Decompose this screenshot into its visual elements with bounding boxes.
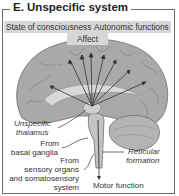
sensory-label-line3: and somatosensory: [9, 174, 79, 183]
sensory-label-line1: From: [60, 156, 79, 165]
motor-function-label: Motor function: [93, 181, 144, 190]
sensory-label-line4: system: [54, 183, 79, 192]
reticular-formation-label-line2: formation: [126, 156, 159, 165]
state-of-consciousness-label: State of consciousness: [4, 21, 93, 33]
autonomic-functions-label: Autonomic functions: [92, 21, 171, 33]
basal-ganglia-label-line1: From: [40, 139, 59, 148]
sensory-label-line2: sensory organs: [24, 165, 79, 174]
basal-ganglia-label-line2: basal ganglia: [11, 148, 58, 157]
unspecific-thalamus-label-line2: thalamus: [16, 128, 48, 137]
reticular-formation-label-line1: Reticular: [128, 147, 160, 156]
cerebellum: [109, 116, 159, 151]
unspecific-thalamus-label-line1: Unspecific: [14, 119, 51, 128]
affect-label: Affect: [67, 33, 108, 45]
